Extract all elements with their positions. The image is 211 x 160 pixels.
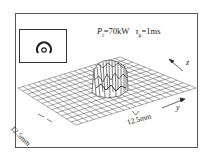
z-axis-label: z [186,58,189,67]
y-axis-label: y [176,103,180,112]
intensity-peak [92,60,128,98]
surface-plot [0,0,211,160]
